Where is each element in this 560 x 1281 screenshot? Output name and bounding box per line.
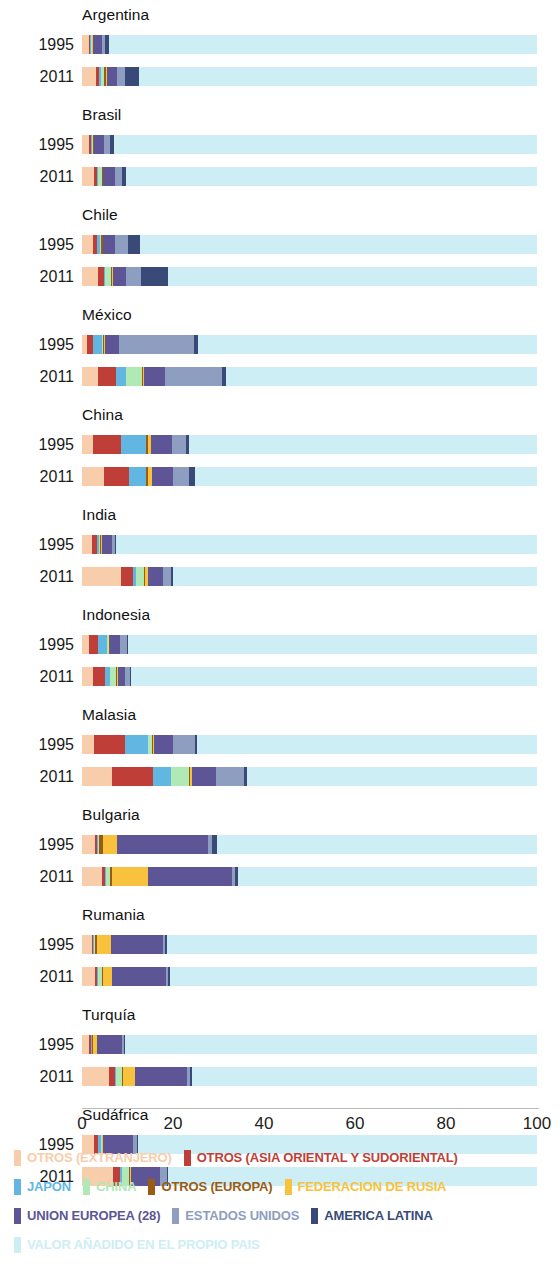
- bar-segment-otros_extranjero: [82, 1035, 89, 1054]
- legend-item[interactable]: OTROS (ASIA ORIENTAL Y SUDORIENTAL): [184, 1150, 458, 1166]
- bar-segment-union_europea: [148, 567, 163, 586]
- year-label: 2011: [14, 667, 74, 686]
- bar-segment-union_europea: [112, 967, 165, 986]
- legend-row: OTROS (EXTRANJERO)OTROS (ASIA ORIENTAL Y…: [14, 1148, 560, 1178]
- legend-item[interactable]: OTROS (EUROPA): [148, 1179, 272, 1195]
- legend-label: VALOR AÑADIDO EN EL PROPIO PAIS: [27, 1237, 260, 1252]
- bar-segment-america_latina: [190, 1067, 192, 1086]
- bar-segment-otros_extranjero: [82, 467, 104, 486]
- legend-item[interactable]: AMERICA LATINA: [311, 1208, 432, 1224]
- plot-area: Argentina19952011Brasil19952011Chile1995…: [0, 0, 560, 1110]
- bar-segment-america_latina: [189, 467, 195, 486]
- bar-segment-union_europea: [135, 1067, 186, 1086]
- bar-track: [82, 67, 537, 86]
- bar-track: [82, 1035, 537, 1054]
- bar-track: [82, 435, 537, 454]
- year-label: 1995: [14, 535, 74, 554]
- bar-track: [82, 467, 537, 486]
- bar-segment-rusia: [103, 835, 117, 854]
- bar-row: 2011: [0, 67, 560, 86]
- bar-row: 1995: [0, 135, 560, 154]
- country-label: Rumania: [82, 906, 145, 924]
- country-label: India: [82, 506, 116, 524]
- year-label: 1995: [14, 835, 74, 854]
- x-tick-0: 0: [77, 1114, 86, 1134]
- bar-segment-japon: [153, 767, 171, 786]
- year-label: 1995: [14, 1035, 74, 1054]
- bar-segment-estados_unidos: [173, 467, 189, 486]
- bar-segment-union_europea: [144, 367, 165, 386]
- bar-track: [82, 735, 537, 754]
- bar-segment-otros_extranjero: [82, 235, 93, 254]
- country-label: Bulgaria: [82, 806, 140, 824]
- legend-item[interactable]: VALOR AÑADIDO EN EL PROPIO PAIS: [14, 1237, 260, 1253]
- legend-item[interactable]: CHINA: [83, 1179, 136, 1195]
- bar-row: 1995: [0, 335, 560, 354]
- year-label: 1995: [14, 435, 74, 454]
- bar-track: [82, 867, 537, 886]
- legend-label: CHINA: [96, 1179, 136, 1194]
- bar-segment-otros_extranjero: [82, 935, 92, 954]
- country-label: China: [82, 406, 123, 424]
- legend-swatch-icon: [172, 1208, 179, 1224]
- bar-track: [82, 567, 537, 586]
- legend-item[interactable]: ESTADOS UNIDOS: [172, 1208, 299, 1224]
- legend-item[interactable]: OTROS (EXTRANJERO): [14, 1150, 172, 1166]
- year-label: 1995: [14, 935, 74, 954]
- legend-item[interactable]: JAPON: [14, 1179, 71, 1195]
- bar-segment-estados_unidos: [165, 367, 222, 386]
- bar-track: [82, 935, 537, 954]
- bar-row: 1995: [0, 235, 560, 254]
- bar-segment-estados_unidos: [115, 167, 122, 186]
- bar-track: [82, 835, 537, 854]
- year-label: 1995: [14, 635, 74, 654]
- bar-segment-union_europea: [192, 767, 216, 786]
- bar-segment-japon: [125, 735, 148, 754]
- bar-segment-otros_asia: [104, 467, 129, 486]
- legend-label: UNION EUROPEA (28): [27, 1208, 160, 1223]
- bar-segment-otros_asia: [94, 735, 125, 754]
- bar-segment-japon: [116, 367, 126, 386]
- bar-segment-china: [126, 367, 141, 386]
- bar-track: [82, 267, 537, 286]
- x-tick-60: 60: [346, 1114, 365, 1134]
- bar-row: 1995: [0, 935, 560, 954]
- legend-label: AMERICA LATINA: [324, 1208, 432, 1223]
- bar-segment-japon: [121, 435, 146, 454]
- bar-segment-estados_unidos: [117, 67, 125, 86]
- bar-segment-union_europea: [103, 235, 114, 254]
- legend-swatch-icon: [14, 1179, 21, 1195]
- country-label: Indonesia: [82, 606, 150, 624]
- bar-segment-union_europea: [154, 735, 174, 754]
- x-tick-40: 40: [255, 1114, 274, 1134]
- bar-segment-japon: [93, 335, 102, 354]
- bar-track: [82, 135, 537, 154]
- legend-row: VALOR AÑADIDO EN EL PROPIO PAIS: [14, 1235, 560, 1265]
- bar-segment-union_europea: [105, 335, 119, 354]
- legend-swatch-icon: [184, 1150, 191, 1166]
- bar-track: [82, 767, 537, 786]
- bar-segment-otros_extranjero: [82, 67, 96, 86]
- bar-segment-otros_extranjero: [82, 635, 89, 654]
- legend-swatch-icon: [285, 1179, 292, 1195]
- bar-segment-china: [171, 767, 189, 786]
- legend-item[interactable]: UNION EUROPEA (28): [14, 1208, 160, 1224]
- bar-segment-japon: [98, 635, 108, 654]
- bar-segment-america_latina: [128, 235, 140, 254]
- x-tick-20: 20: [164, 1114, 183, 1134]
- bar-row: 2011: [0, 467, 560, 486]
- bar-segment-otros_extranjero: [82, 367, 98, 386]
- bar-segment-union_europea: [107, 67, 117, 86]
- bar-segment-union_europea: [110, 635, 120, 654]
- bar-segment-america_latina: [122, 167, 126, 186]
- bar-segment-otros_extranjero: [82, 535, 92, 554]
- bar-segment-union_europea: [93, 35, 103, 54]
- bar-row: 2011: [0, 767, 560, 786]
- bar-row: 1995: [0, 535, 560, 554]
- legend-label: OTROS (EUROPA): [161, 1179, 272, 1194]
- bar-row: 2011: [0, 267, 560, 286]
- legend-item[interactable]: FEDERACION DE RUSIA: [285, 1179, 447, 1195]
- year-label: 1995: [14, 135, 74, 154]
- bar-segment-union_europea: [148, 867, 232, 886]
- bar-segment-estados_unidos: [119, 335, 194, 354]
